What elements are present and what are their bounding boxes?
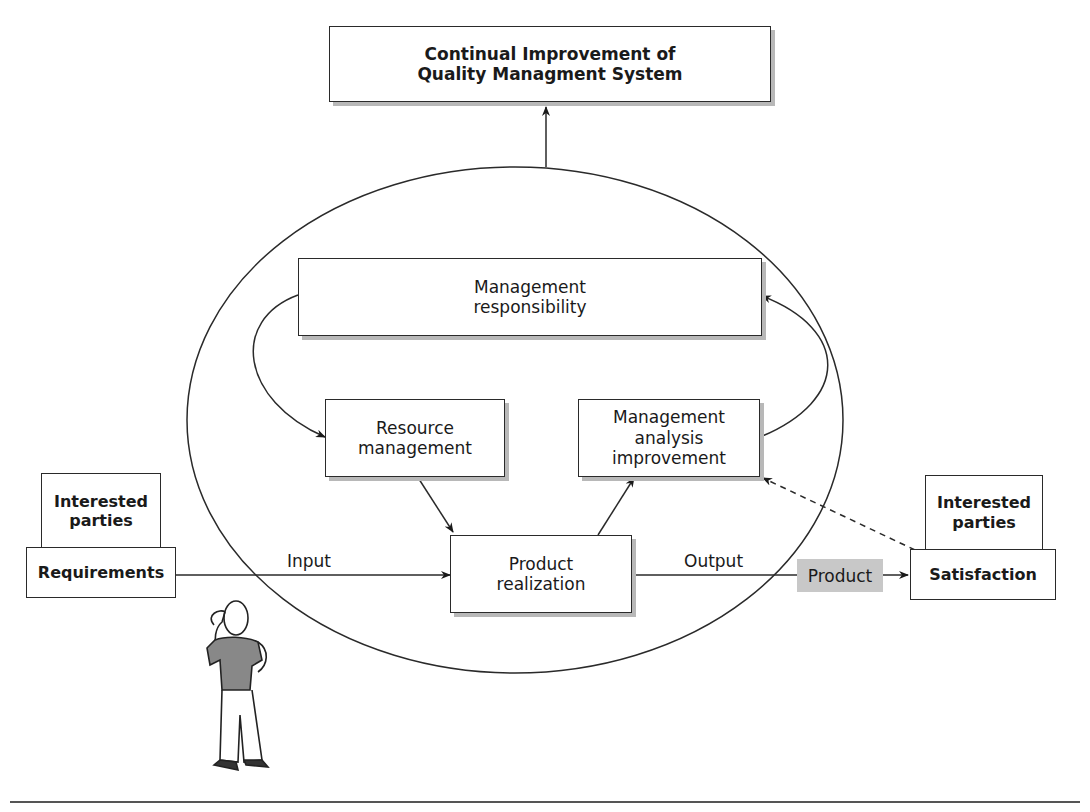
interested-parties-left-line-1: Interested (54, 492, 148, 511)
arrow-resource-to-realization (417, 476, 453, 532)
management-analysis-box: Management analysis improvement (578, 399, 760, 477)
management-responsibility-line-1: Management (474, 277, 586, 297)
arrow-realization-to-analysis (598, 478, 634, 535)
interested-parties-left-box: Interested parties (41, 473, 161, 549)
satisfaction-box: Satisfaction (910, 549, 1056, 600)
requirements-box: Requirements (26, 547, 176, 598)
product-realization-box: Product realization (450, 535, 632, 613)
management-analysis-line-3: improvement (612, 448, 726, 468)
resource-management-line-2: management (358, 438, 472, 458)
management-responsibility-box: Management responsibility (298, 258, 762, 336)
continual-improvement-box: Continual Improvement of Quality Managme… (329, 26, 771, 102)
product-realization-line-1: Product (509, 554, 574, 574)
interested-parties-right-line-1: Interested (937, 493, 1031, 512)
management-responsibility-line-2: responsibility (473, 297, 586, 317)
arrow-analysis-to-responsibility (760, 296, 828, 437)
satisfaction-label: Satisfaction (929, 565, 1037, 584)
diagram-connectors (0, 0, 1090, 812)
resource-management-box: Resource management (325, 399, 505, 477)
input-label: Input (287, 551, 331, 571)
management-analysis-line-2: analysis (635, 428, 704, 448)
interested-parties-left-line-2: parties (69, 511, 133, 530)
product-realization-line-2: realization (497, 574, 586, 594)
continual-improvement-line-1: Continual Improvement of (425, 44, 676, 64)
output-label: Output (684, 551, 743, 571)
management-analysis-line-1: Management (613, 407, 725, 427)
continual-improvement-line-2: Quality Managment System (417, 64, 682, 84)
product-label: Product (797, 559, 883, 592)
requirements-label: Requirements (38, 563, 164, 582)
interested-parties-right-box: Interested parties (925, 475, 1043, 550)
arrow-satisfaction-to-analysis (763, 478, 915, 550)
person-illustration (207, 601, 268, 770)
resource-management-line-1: Resource (376, 418, 454, 438)
interested-parties-right-line-2: parties (952, 513, 1016, 532)
